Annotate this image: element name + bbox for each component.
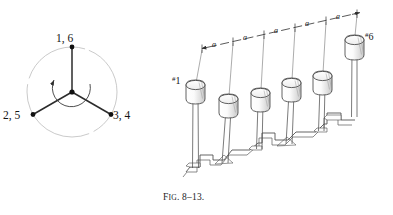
- pedestal-5: [314, 128, 327, 132]
- phasor-node-2-5: [31, 112, 36, 117]
- dimension-label-a-1: a: [212, 40, 216, 49]
- mass-label-6: #6: [365, 32, 374, 42]
- phasor-label-3-4: 3, 4: [113, 110, 130, 122]
- phasor-label-2-5: 2, 5: [3, 110, 20, 122]
- pole-6: [352, 51, 358, 117]
- pedestal-1: [186, 163, 200, 167]
- ground-foundation-group: [183, 113, 355, 177]
- figure-caption: FIG. 8–13.: [163, 192, 204, 202]
- mass-assembly-2: [219, 94, 238, 163]
- figure-8-13: 1, 6 2, 5 3, 4 #1 #6 a a a a a FIG. 8–13…: [0, 0, 393, 215]
- phasor-diagram-group: [27, 45, 117, 137]
- mass-assembly-6: [345, 35, 364, 117]
- ground-near-edge: [183, 118, 352, 177]
- projection-line-6: [355, 15, 357, 36]
- projection-line-5: [323, 22, 326, 73]
- mass-number-1: 1: [176, 75, 181, 86]
- projection-line-3: [261, 36, 264, 90]
- dimension-label-a-2: a: [243, 33, 247, 42]
- mass-number-6: 6: [369, 31, 374, 42]
- dimension-label-a-4: a: [305, 19, 309, 28]
- phasor-spoke-2-5: [33, 92, 72, 115]
- phasor-label-1-6: 1, 6: [56, 33, 73, 45]
- mass-assembly-3: [251, 88, 270, 149]
- ground-far-edge: [186, 113, 355, 172]
- dimension-arrow-right: [352, 13, 360, 15]
- pedestal-3: [249, 146, 262, 150]
- mass-assembly-4: [282, 78, 301, 144]
- dimension-label-a-3: a: [274, 26, 278, 35]
- phasor-spoke-3-4: [72, 92, 111, 115]
- projection-line-2: [229, 43, 233, 96]
- pole-1: [193, 95, 199, 168]
- dimension-arrow-left: [202, 47, 208, 48]
- projection-line-4: [292, 29, 295, 80]
- phasor-center-node: [69, 89, 74, 94]
- dimension-label-a-5: a: [336, 12, 340, 21]
- phasor-node-1-6: [70, 45, 75, 50]
- dimension-line-dashed: [208, 14, 356, 48]
- spacing-dimension-line-group: [196, 10, 360, 97]
- caption-fig-smallcaps: IG: [168, 193, 176, 202]
- pedestal-6: [324, 115, 341, 120]
- mass-label-1: #1: [172, 76, 181, 86]
- projection-line-1: [196, 50, 202, 83]
- caption-fig-number: . 8–13.: [177, 192, 205, 202]
- mass-assembly-5: [313, 71, 332, 131]
